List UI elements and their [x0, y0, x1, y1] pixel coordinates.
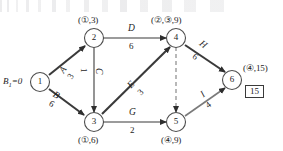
edge-C-weight: 1: [79, 68, 88, 73]
node-2-number: 2: [87, 33, 101, 42]
edge-C-name: C: [94, 68, 104, 74]
edge-E-3-to-4: [102, 47, 170, 114]
node-5-tag: (④,9): [161, 136, 181, 145]
edge-G-name: G: [129, 108, 136, 118]
node-5-number: 5: [169, 117, 183, 126]
graph-canvas: [0, 0, 283, 151]
total-duration-box: 15: [245, 85, 264, 98]
node-1-number: 1: [33, 77, 47, 86]
node-4-number: 4: [169, 33, 183, 42]
node-2-tag: (①,3): [78, 16, 98, 25]
edge-D-name: D: [128, 24, 135, 34]
network-diagram: 1 2 3 4 5 6 (①,3) (②,③,9) (①,6) (④,9) (④…: [0, 0, 283, 151]
node-6-tag: (④,15): [243, 64, 268, 73]
start-node-value-label: B1=0: [3, 77, 22, 88]
edge-D-weight: 6: [129, 42, 134, 51]
node-6-number: 6: [225, 75, 239, 84]
start-label-text: B1=0: [3, 76, 22, 86]
node-4-tag: (②,③,9): [151, 16, 181, 25]
edge-G-weight: 2: [130, 126, 135, 135]
node-3-tag: (①,6): [78, 136, 98, 145]
node-3-number: 3: [87, 117, 101, 126]
